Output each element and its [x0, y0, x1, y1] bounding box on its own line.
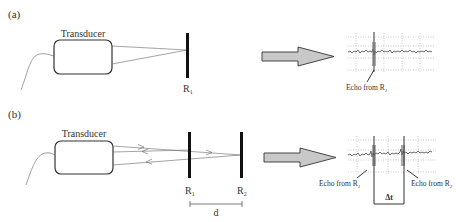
process-arrow — [264, 148, 336, 167]
reflector-r1 — [188, 132, 191, 178]
panel-a: (a) Transducer R1 Echo f — [8, 8, 435, 95]
reflector-r1-label: R1 — [185, 185, 195, 197]
ultrasound-echo-diagram: (a) Transducer R1 Echo f — [0, 0, 474, 222]
transducer-label: Transducer — [61, 28, 106, 39]
reflector-r1 — [186, 33, 189, 78]
arrowhead-right-icon — [138, 145, 144, 150]
transducer-box — [54, 40, 112, 74]
panel-a-label: (a) — [8, 8, 21, 21]
oscilloscope-trace-a — [348, 32, 435, 82]
echo-r1-label: Echo from R1 — [346, 83, 387, 93]
reflector-r1-label: R1 — [183, 83, 193, 95]
echo-pointer — [367, 70, 374, 82]
distance-label: d — [214, 207, 219, 218]
echo-r1-label: Echo from R1 — [319, 179, 360, 189]
transducer-box — [55, 141, 113, 174]
cable — [21, 54, 54, 90]
reflector-r2-label: R2 — [237, 185, 247, 197]
process-arrow — [262, 47, 334, 66]
reflector-r2 — [240, 132, 243, 178]
panel-b-label: (b) — [8, 108, 21, 121]
panel-b: (b) Transducer R1 R2 d — [8, 108, 453, 218]
echo-pointer — [407, 170, 418, 178]
echo-pointer — [357, 170, 367, 178]
cable — [26, 153, 55, 185]
beam-line — [112, 50, 187, 64]
delta-t-label: Δt — [385, 193, 393, 202]
transducer-label: Transducer — [62, 128, 107, 139]
arrowhead-left-icon — [146, 159, 152, 164]
echo-r2-label: Echo from R2 — [411, 179, 453, 189]
beam-paths — [113, 145, 241, 166]
beam-line — [112, 46, 187, 50]
